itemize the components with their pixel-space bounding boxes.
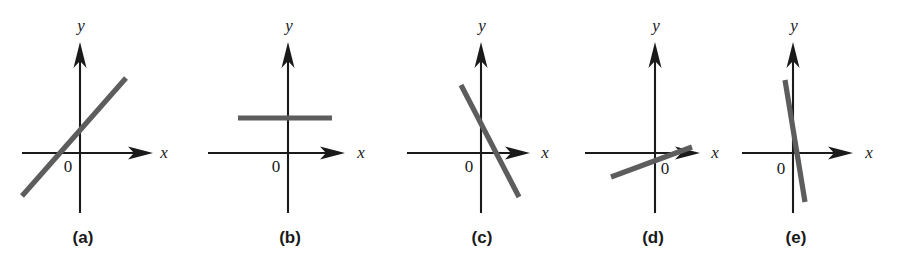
origin-label: 0 [465,157,474,176]
panel-caption-a: (a) [73,228,94,248]
panel-caption-e: (e) [786,228,807,248]
panel-b: x y 0 (b) [180,0,375,271]
origin-label: 0 [661,159,670,178]
panel-c-plot: x y 0 [375,0,555,228]
origin-label: 0 [777,159,786,178]
x-axis-label: x [864,143,873,162]
plotted-line [461,85,519,197]
panel-d: x y 0 (d) [555,0,725,271]
panel-e: x y 0 (e) [725,0,898,271]
figure-five-line-graphs: x y 0 (a) x y 0 (b) x y 0 [0,0,898,271]
x-axis-label: x [540,143,549,162]
panel-caption-b: (b) [279,228,301,248]
y-axis-label: y [650,16,660,35]
y-axis-label: y [283,16,293,35]
panel-a-plot: x y 0 [0,0,180,228]
x-axis-label: x [356,143,365,162]
plotted-line [22,78,126,196]
panel-c: x y 0 (c) [375,0,555,271]
panel-caption-d: (d) [642,228,664,248]
panel-caption-c: (c) [472,228,493,248]
plotted-line [785,80,805,202]
y-axis-label: y [476,16,486,35]
panel-a: x y 0 (a) [0,0,180,271]
panel-b-plot: x y 0 [180,0,375,228]
plotted-line [611,147,692,177]
x-axis-label: x [159,143,168,162]
y-axis-label: y [788,16,798,35]
origin-label: 0 [272,157,281,176]
panel-e-plot: x y 0 [725,0,898,228]
x-axis-label: x [710,143,719,162]
panel-d-plot: x y 0 [555,0,725,228]
y-axis-label: y [75,16,85,35]
origin-label: 0 [64,157,73,176]
